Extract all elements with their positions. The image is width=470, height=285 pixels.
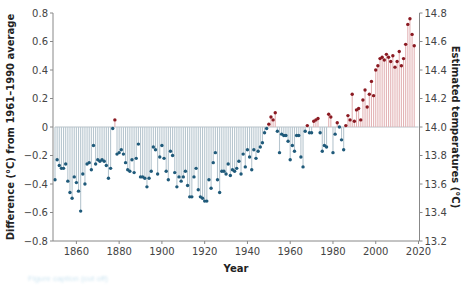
y-tick-label-left: 0.8 [32,8,48,19]
y-tick-label-left: −0.8 [24,236,48,247]
data-point [303,130,306,133]
data-point [297,134,300,137]
data-point [344,124,347,127]
data-point [357,107,360,110]
data-point [246,148,249,151]
x-tick-label: 1920 [192,246,217,257]
temperature-anomaly-chart: −0.8−0.6−0.4−0.200.20.40.60.813.213.413.… [0,0,470,285]
y-tick-label-right: 14.8 [425,8,447,19]
data-point [94,162,97,165]
data-point [237,160,240,163]
data-point [216,178,219,181]
data-point [365,105,368,108]
data-point [348,118,351,121]
data-point [209,187,212,190]
y-tick-label-right: 14.2 [425,93,447,104]
data-point [77,189,80,192]
data-point [81,172,84,175]
data-point [58,164,61,167]
data-point [374,68,377,71]
x-tick-label: 1980 [320,246,345,257]
data-point [152,145,155,148]
y-tick-label-left: 0 [42,122,48,133]
data-point [233,169,236,172]
data-point [301,165,304,168]
data-point [207,178,210,181]
x-tick-label: 2020 [406,246,431,257]
data-point [175,185,178,188]
data-point [156,172,159,175]
data-point [248,155,251,158]
data-point [137,142,140,145]
data-point [122,152,125,155]
data-point [400,64,403,67]
data-point [120,148,123,151]
data-point [162,157,165,160]
data-point [278,151,281,154]
data-point [92,144,95,147]
data-point [66,179,69,182]
x-tick-label: 2000 [363,246,388,257]
data-point [372,94,375,97]
data-point [346,114,349,117]
data-point [387,55,390,58]
y-tick-label-left: −0.4 [24,179,48,190]
data-point [331,151,334,154]
data-point [147,177,150,180]
data-point [173,171,176,174]
data-point [284,134,287,137]
y-tick-label-right: 13.8 [425,150,447,161]
data-point [160,144,163,147]
data-point [167,178,170,181]
data-point [398,50,401,53]
data-point [310,131,313,134]
data-point [368,93,371,96]
data-point [252,148,255,151]
data-point [404,43,407,46]
data-point [406,23,409,26]
data-point [226,162,229,165]
data-point [239,172,242,175]
y-tick-label-left: 0.4 [32,65,48,76]
data-bars [55,19,419,211]
data-point [325,145,328,148]
data-point [111,127,114,130]
data-point [109,167,112,170]
data-point [145,185,148,188]
data-point [244,165,247,168]
data-point [53,178,56,181]
y-tick-label-left: 0.2 [32,93,48,104]
data-point [321,150,324,153]
data-point [88,161,91,164]
data-point [158,155,161,158]
data-point [413,44,416,47]
data-point [353,120,356,123]
data-point [380,55,383,58]
data-point [212,161,215,164]
data-point [361,98,364,101]
data-point [289,158,292,161]
data-point [222,169,225,172]
data-point [336,121,339,124]
data-point [68,191,71,194]
data-point [75,181,78,184]
data-point [286,140,289,143]
data-point [259,145,262,148]
data-point [130,158,133,161]
data-point [135,157,138,160]
data-point [186,184,189,187]
data-point [184,169,187,172]
data-point [276,130,279,133]
data-point [327,112,330,115]
data-point [70,197,73,200]
data-point [318,131,321,134]
y-tick-label-left: −0.6 [24,207,48,218]
data-point [267,122,270,125]
data-point [190,195,193,198]
y-tick-label-right: 14.0 [425,122,447,133]
data-point [154,148,157,151]
y-tick-label-right: 14.6 [425,36,447,47]
data-point [90,168,93,171]
y-tick-label-right: 13.2 [425,236,447,247]
data-point [171,154,174,157]
